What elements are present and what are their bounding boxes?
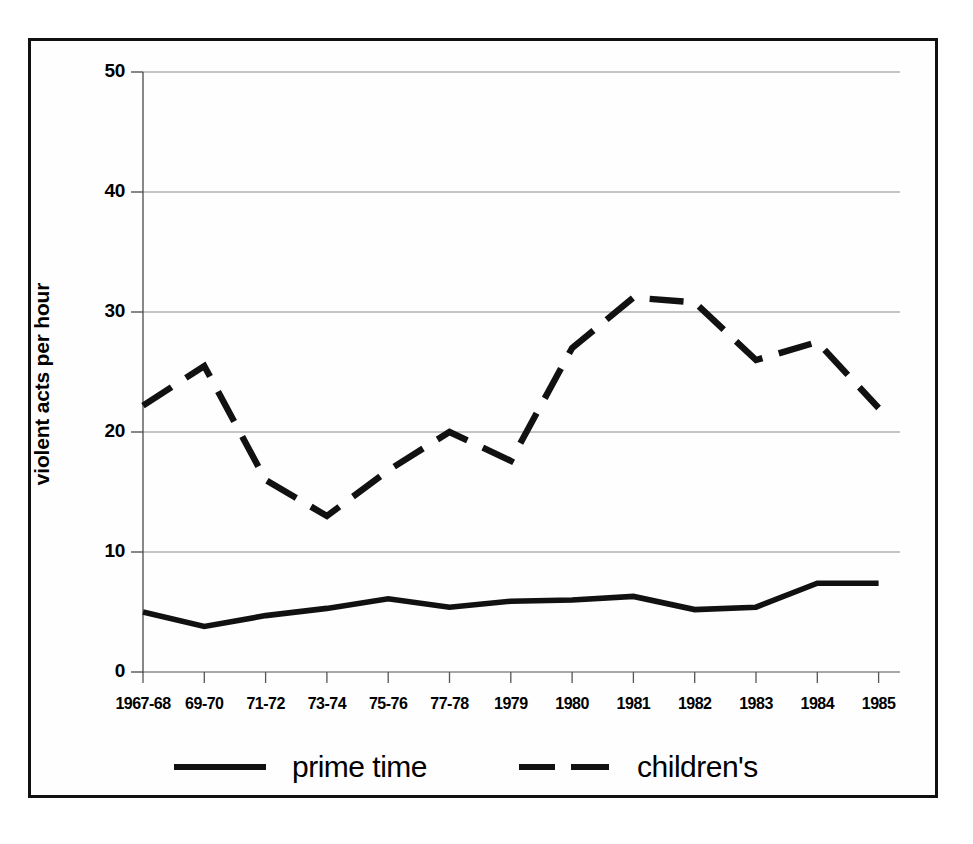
legend-item-childrens: children's [519,750,758,784]
x-tick-label-12: 1985 [834,695,924,713]
legend-swatch-dashed-icon [519,756,611,778]
y-tick-label-30: 30 [85,300,125,322]
chart-legend: prime time children's [150,742,850,792]
legend-item-prime-time: prime time [174,750,427,784]
y-tick-label-10: 10 [85,540,125,562]
y-tick-label-50: 50 [85,60,125,82]
chart-figure: 50403020100 1967-6869-7071-7273-7475-767… [0,0,973,844]
legend-label-childrens: children's [637,750,758,784]
legend-label-prime-time: prime time [292,750,427,784]
legend-swatch-solid-icon [174,756,266,778]
y-tick-label-0: 0 [85,660,125,682]
chart-frame-border [28,38,938,798]
cut-off-caption [100,826,860,842]
y-axis-label: violent acts per hour [30,254,54,514]
y-tick-label-20: 20 [85,420,125,442]
y-tick-label-40: 40 [85,180,125,202]
